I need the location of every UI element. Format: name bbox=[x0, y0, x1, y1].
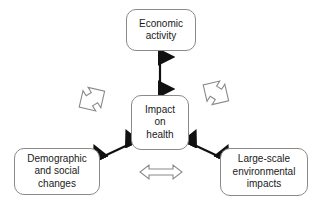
node-demographic-and-social-changes[interactable]: Demographic and social changes bbox=[14, 148, 100, 195]
diagram-canvas: Economic activity Impact on health Demog… bbox=[0, 0, 319, 206]
right-hollow-arrow bbox=[204, 76, 238, 116]
node-impact-on-health[interactable]: Impact on health bbox=[131, 95, 189, 150]
bottom-hollow-arrow bbox=[138, 163, 184, 181]
node-large-scale-environmental-impacts[interactable]: Large-scale environmental impacts bbox=[220, 148, 308, 196]
economic-impact-connector bbox=[152, 49, 168, 97]
left-hollow-arrow bbox=[80, 76, 114, 116]
node-economic-activity[interactable]: Economic activity bbox=[126, 9, 196, 51]
